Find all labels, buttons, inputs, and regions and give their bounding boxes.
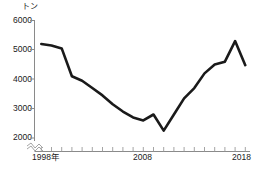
x-tick-label-2018: 2018 (232, 152, 251, 162)
chart-figure: トン 6000 5000 4000 3000 2000 (0, 0, 257, 174)
axis-break-icon (27, 143, 43, 151)
x-tick-label-1998: 1998年 (32, 152, 60, 162)
chart-plot-area (0, 0, 257, 174)
data-series-line (41, 41, 245, 131)
x-axis-ticks (41, 147, 245, 152)
x-tick-label-2008: 2008 (133, 152, 152, 162)
